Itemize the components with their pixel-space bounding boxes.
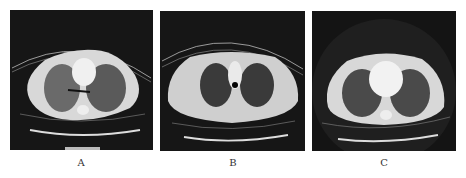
ct-image-c xyxy=(312,11,456,151)
ct-scan-panel-c xyxy=(312,11,456,151)
panel-label-a: A xyxy=(71,157,91,168)
ct-scan-panel-a xyxy=(10,10,153,150)
ct-scan-panel-b xyxy=(160,11,305,151)
panel-label-c: C xyxy=(374,157,394,168)
ct-image-b xyxy=(160,11,305,151)
panel-label-b: B xyxy=(223,157,243,168)
ct-image-a xyxy=(10,10,153,150)
